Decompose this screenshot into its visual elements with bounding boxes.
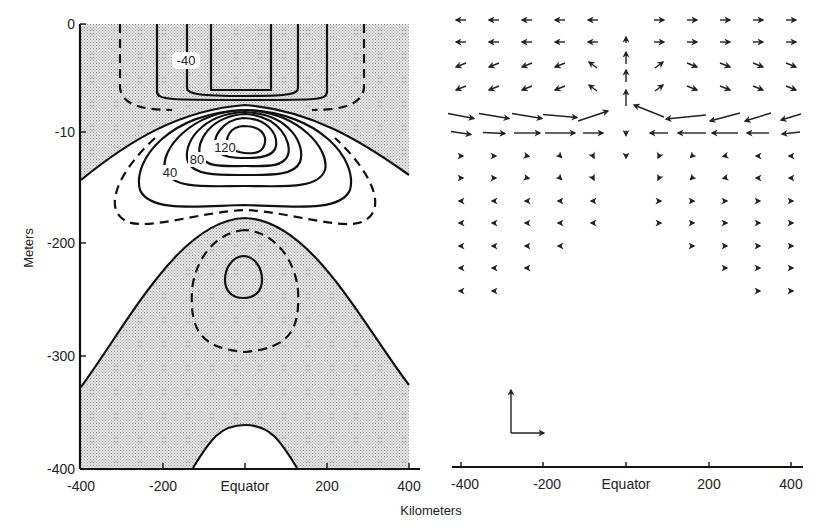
y-tick-neg10: -10 [55, 124, 75, 140]
x-tick-neg400: -400 [67, 478, 95, 494]
vector-arrow [592, 176, 594, 180]
contour-dashed-lobe [115, 138, 375, 224]
vector-arrow [589, 62, 597, 68]
x-tick-400: 400 [397, 478, 421, 494]
vector-field [448, 20, 801, 291]
y-tick-0: 0 [67, 16, 75, 32]
vector-arrow [634, 105, 664, 117]
vector-arrow [781, 114, 801, 120]
vector-arrow [525, 156, 529, 157]
x-tick-equator: Equator [220, 478, 269, 494]
vector-arrow [782, 132, 800, 134]
vector-arrow [479, 114, 509, 119]
vector-arrow [525, 178, 529, 179]
x-tick-neg200: -200 [149, 478, 177, 494]
x-tick-labels-right: -400 -200 Equator 200 400 [451, 476, 803, 492]
contour-label-120: 120 [214, 140, 236, 155]
vector-arrow [666, 115, 706, 119]
vector-arrow [483, 133, 505, 134]
contour-label-neg40: -40 [177, 53, 196, 68]
vector-arrow [753, 63, 763, 67]
vector-arrow [655, 85, 663, 91]
vector-arrow [720, 86, 730, 90]
figure: -40 120 80 40 0 -10 -200 [0, 0, 815, 531]
vector-arrow [559, 155, 562, 158]
x-tick-200: 200 [315, 478, 339, 494]
vector-arrow [710, 113, 740, 121]
y-tick-neg200: -200 [47, 235, 75, 251]
vector-arrow [559, 177, 562, 180]
vector-arrow [522, 86, 532, 90]
vector-arrow [753, 86, 763, 90]
x-tick-200-right: 200 [697, 476, 721, 492]
contour-label-80: 80 [190, 152, 204, 167]
y-tick-neg400: -400 [47, 461, 75, 477]
vector-arrow [522, 63, 532, 67]
vector-arrow [745, 113, 771, 121]
vector-arrow [451, 132, 471, 135]
vector-arrow [658, 176, 660, 180]
vector-arrow [723, 156, 727, 157]
vector-arrow [489, 63, 499, 67]
x-tick-labels-left: -400 -200 Equator 200 400 [67, 478, 421, 494]
contour-panel: -40 120 80 40 0 -10 -200 [21, 16, 421, 494]
vector-arrow [786, 86, 796, 90]
vector-arrow [691, 155, 694, 158]
vector-arrow [589, 85, 597, 91]
vector-arrow [555, 63, 565, 67]
vector-arrow [720, 63, 730, 67]
vector-panel: -400 -200 Equator 200 400 [448, 20, 803, 492]
vector-arrow [687, 63, 697, 67]
x-tick-equator-right: Equator [601, 476, 650, 492]
vector-arrow [687, 86, 697, 90]
vector-arrow [658, 154, 660, 158]
y-tick-labels: 0 -10 -200 -300 -400 [47, 16, 75, 477]
x-tick-neg400-right: -400 [451, 476, 479, 492]
x-axis-title: Kilometers [400, 503, 462, 518]
vector-arrow [448, 114, 474, 119]
vector-arrow [543, 115, 577, 118]
y-tick-neg300: -300 [47, 348, 75, 364]
vector-arrow [555, 86, 565, 90]
vector-arrow [592, 154, 594, 158]
vector-arrow [655, 62, 663, 68]
vector-arrow [786, 63, 796, 67]
vector-arrow [691, 177, 694, 180]
reference-arrows [511, 390, 544, 433]
vector-arrow [723, 178, 727, 179]
vector-arrow [489, 86, 499, 90]
vector-arrow [456, 86, 466, 90]
y-axis-title: Meters [21, 228, 36, 268]
vector-arrow [512, 114, 542, 119]
x-tick-400-right: 400 [779, 476, 803, 492]
vector-arrow [578, 111, 608, 121]
contour-label-40: 40 [163, 165, 177, 180]
vector-arrow [456, 63, 466, 67]
x-tick-neg200-right: -200 [533, 476, 561, 492]
